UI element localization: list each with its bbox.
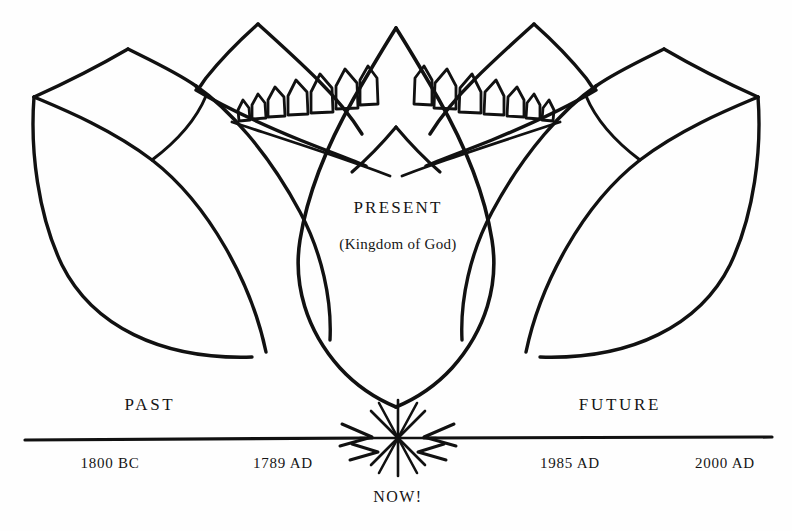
petal-outer-left-inner-edge <box>34 97 266 352</box>
petal-second-right-crease <box>586 96 640 160</box>
present-subtitle: (Kingdom of God) <box>339 236 456 253</box>
future-label: FUTURE <box>579 395 661 415</box>
petal-third-right-outer <box>534 24 596 88</box>
lotus-timeline-figure: PRESENT (Kingdom of God) PAST FUTURE 180… <box>0 0 792 531</box>
now-label: NOW! <box>373 488 422 506</box>
timeline-mark-1789ad: 1789 AD <box>253 455 313 472</box>
timeline-axis-right <box>424 437 772 438</box>
past-label: PAST <box>125 395 176 415</box>
petal-third-left-base <box>196 90 366 166</box>
petal-second-right-outer <box>664 49 758 97</box>
now-center-dot <box>395 435 401 441</box>
petal-outer-left <box>33 97 252 357</box>
petal-outer-right <box>540 97 759 357</box>
lotus-drawing <box>0 0 792 531</box>
present-title: PRESENT <box>353 198 442 218</box>
timeline-mark-1800bc: 1800 BC <box>80 455 139 472</box>
petal-third-left-outer <box>196 24 258 88</box>
petal-second-right-body <box>462 49 664 340</box>
petal-second-left-crease <box>152 96 206 160</box>
petal-third-right-base <box>426 90 596 166</box>
petal-second-left-outer <box>34 49 128 97</box>
timeline-mark-1985ad: 1985 AD <box>540 455 600 472</box>
timeline-axis-left <box>25 438 372 440</box>
petal-second-left-body <box>128 49 330 340</box>
timeline-mark-2000ad: 2000 AD <box>695 455 755 472</box>
petal-outer-right-inner-edge <box>526 97 758 352</box>
